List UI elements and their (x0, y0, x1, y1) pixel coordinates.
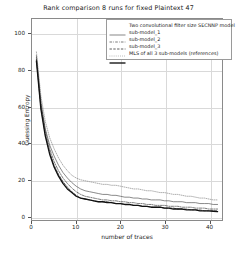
legend-label: sub-model_1 (129, 29, 160, 36)
x-tick-label: 0 (19, 224, 43, 230)
legend-line-swatch (109, 30, 126, 36)
legend-label: MLS of all 3 sub-models (references) (129, 50, 218, 57)
x-tick-mark (120, 221, 121, 224)
series-line-5 (36, 61, 217, 212)
legend-item-1[interactable]: Two convolutional filter size SECNNP mod… (109, 22, 229, 29)
x-tick-label: 20 (108, 224, 132, 230)
series-line-2 (36, 56, 217, 209)
legend-label: sub-model_2 (129, 36, 160, 43)
legend-item-4[interactable]: sub-model_3 (109, 43, 229, 50)
y-tick-label: 20 (1, 177, 25, 183)
y-tick-label: 80 (1, 67, 25, 73)
y-tick-label: 60 (1, 104, 25, 110)
x-tick-label: 10 (64, 224, 88, 230)
x-tick-label: 40 (198, 224, 222, 230)
chart-figure: Rank comparison 8 runs for fixed Plainte… (0, 0, 237, 253)
x-tick-mark (76, 221, 77, 224)
chart-title: Rank comparison 8 runs for fixed Plainte… (0, 4, 237, 12)
legend-item-5[interactable]: MLS of all 3 sub-models (references) (109, 50, 229, 57)
legend-line-swatch (109, 51, 126, 57)
x-tick-mark (165, 221, 166, 224)
y-tick-label: 40 (1, 140, 25, 146)
legend-line-swatch (109, 23, 126, 29)
series-line-1 (36, 57, 217, 204)
x-tick-mark (210, 221, 211, 224)
y-tick-label: 0 (1, 214, 25, 220)
legend-line-swatch (109, 37, 126, 43)
y-axis-label-container: Guessing Entropy (2, 18, 12, 221)
legend-item-2[interactable]: sub-model_1 (109, 29, 229, 36)
x-tick-label: 30 (153, 224, 177, 230)
series-line-3 (36, 59, 217, 211)
series-line-4 (36, 52, 217, 200)
legend-item-3[interactable]: sub-model_2 (109, 36, 229, 43)
chart-legend: Two convolutional filter size SECNNP mod… (106, 19, 232, 60)
legend-line-swatch (109, 44, 126, 50)
legend-label: Two convolutional filter size SECNNP mod… (129, 22, 235, 29)
x-axis-label: number of traces (31, 233, 223, 240)
x-tick-mark (31, 221, 32, 224)
y-tick-label: 100 (1, 30, 25, 36)
y-axis-label: Guessing Entropy (24, 94, 30, 145)
legend-label: sub-model_3 (129, 43, 160, 50)
